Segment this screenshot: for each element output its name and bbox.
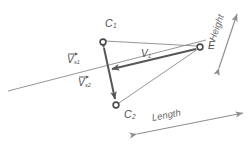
- edge-c1-to-e: [105, 41, 197, 46]
- label-vector-vs1: Vs1: [67, 55, 80, 66]
- label-point-c1-text: C: [105, 17, 113, 29]
- node-marker-c2: [113, 102, 119, 108]
- label-point-c2-text: C: [124, 108, 132, 120]
- label-vector-vs1-head: V: [67, 55, 74, 65]
- edge-c1-c2-double-arrow: [104, 48, 115, 99]
- label-vector-v1-text: V: [141, 48, 148, 59]
- label-point-c2-subscript: 2: [132, 113, 136, 120]
- label-vector-vs1-subscript: s1: [74, 59, 80, 65]
- node-marker-e: [197, 44, 203, 50]
- node-marker-c1: [100, 39, 106, 45]
- label-vector-v1-subscript: 1: [148, 53, 151, 59]
- label-point-c1-subscript: 1: [113, 22, 117, 29]
- label-point-c2: C2: [124, 109, 136, 121]
- label-point-c1: C1: [105, 18, 117, 30]
- label-vector-vs2: Vs2: [78, 78, 91, 89]
- label-vector-vs1-text: V: [67, 54, 74, 65]
- label-vector-vs2-head: V: [78, 78, 85, 88]
- label-vector-v1: V1: [141, 49, 151, 60]
- label-vector-vs2-subscript: s2: [85, 82, 91, 88]
- vector-diagram-figure: C1 C2 E V1 Vs1 Vs2 Height Length: [0, 0, 252, 145]
- label-vector-vs2-text: V: [78, 77, 85, 88]
